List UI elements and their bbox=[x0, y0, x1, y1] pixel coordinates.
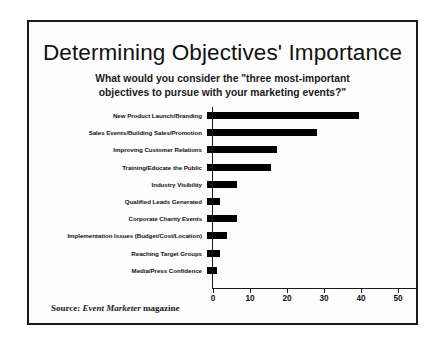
chart-row: Media/Press Confidence bbox=[29, 262, 416, 279]
chart-row: Industry Visibility bbox=[29, 176, 416, 193]
chart-row: Qualified Leads Generated bbox=[29, 193, 416, 210]
x-axis-tick bbox=[398, 289, 399, 293]
x-axis-tick bbox=[250, 289, 251, 293]
subtitle-line-2: objectives to pursue with your marketing… bbox=[29, 86, 416, 100]
bar-track bbox=[207, 227, 416, 244]
source-note: Source: Event Marketer magazine bbox=[51, 303, 180, 313]
x-axis-tick-label: 50 bbox=[393, 294, 402, 303]
bar-track bbox=[207, 107, 416, 124]
bar-track bbox=[207, 262, 416, 279]
x-axis-tick-label: 40 bbox=[356, 294, 365, 303]
category-label: Implementation Issues (Budget/Cost/Locat… bbox=[29, 232, 207, 239]
category-label: Qualified Leads Generated bbox=[29, 198, 207, 205]
chart-row: Training/Educate the Public bbox=[29, 159, 416, 176]
y-axis-line bbox=[212, 107, 213, 289]
y-axis-tick bbox=[209, 167, 213, 168]
y-axis-tick bbox=[209, 116, 213, 117]
y-axis-tick bbox=[209, 133, 213, 134]
y-axis-tick bbox=[209, 253, 213, 254]
category-label: Industry Visibility bbox=[29, 181, 207, 188]
page-title: Determining Objectives' Importance bbox=[29, 40, 416, 66]
x-axis-tick bbox=[287, 289, 288, 293]
x-axis-line bbox=[212, 288, 417, 289]
category-label: Training/Educate the Public bbox=[29, 164, 207, 171]
category-label: Reaching Target Groups bbox=[29, 250, 207, 257]
source-suffix: magazine bbox=[141, 303, 180, 313]
category-label: Media/Press Confidence bbox=[29, 267, 207, 274]
chart-row: Improving Customer Relations bbox=[29, 141, 416, 158]
bar-chart: New Product Launch/Branding Sales Events… bbox=[29, 107, 416, 287]
x-axis-tick bbox=[324, 289, 325, 293]
y-axis-tick bbox=[209, 202, 213, 203]
bar-track bbox=[207, 124, 416, 141]
chart-row: Implementation Issues (Budget/Cost/Locat… bbox=[29, 227, 416, 244]
bar-value bbox=[207, 146, 277, 153]
x-axis-tick-label: 0 bbox=[211, 294, 216, 303]
y-axis-tick bbox=[209, 236, 213, 237]
subtitle-line-1: What would you consider the "three most-… bbox=[29, 72, 416, 86]
slide-subtitle: What would you consider the "three most-… bbox=[29, 72, 416, 99]
x-axis-tick-label: 20 bbox=[282, 294, 291, 303]
bar-value bbox=[207, 112, 359, 119]
y-axis-tick bbox=[209, 219, 213, 220]
y-axis-tick bbox=[209, 150, 213, 151]
chart-row: Corporate Charity Events bbox=[29, 210, 416, 227]
y-axis-tick bbox=[209, 270, 213, 271]
chart-row: Reaching Target Groups bbox=[29, 245, 416, 262]
bar-value bbox=[207, 129, 317, 136]
bar-track bbox=[207, 159, 416, 176]
category-label: Sales Events/Building Sales/Promotion bbox=[29, 129, 207, 136]
source-prefix: Source: bbox=[51, 303, 83, 313]
chart-row: Sales Events/Building Sales/Promotion bbox=[29, 124, 416, 141]
chart-row: New Product Launch/Branding bbox=[29, 107, 416, 124]
x-axis-tick bbox=[361, 289, 362, 293]
bar-track bbox=[207, 210, 416, 227]
bar-track bbox=[207, 193, 416, 210]
x-axis-tick-label: 10 bbox=[245, 294, 254, 303]
category-label: Improving Customer Relations bbox=[29, 146, 207, 153]
slide-frame: Determining Objectives' Importance What … bbox=[27, 20, 418, 325]
bar-track bbox=[207, 245, 416, 262]
bar-track bbox=[207, 141, 416, 158]
category-label: Corporate Charity Events bbox=[29, 215, 207, 222]
x-axis-tick-label: 30 bbox=[319, 294, 328, 303]
category-label: New Product Launch/Branding bbox=[29, 112, 207, 119]
x-axis-tick bbox=[213, 289, 214, 293]
bar-track bbox=[207, 176, 416, 193]
bar-value bbox=[207, 164, 271, 171]
source-publication: Event Marketer bbox=[83, 303, 141, 313]
y-axis-tick bbox=[209, 184, 213, 185]
